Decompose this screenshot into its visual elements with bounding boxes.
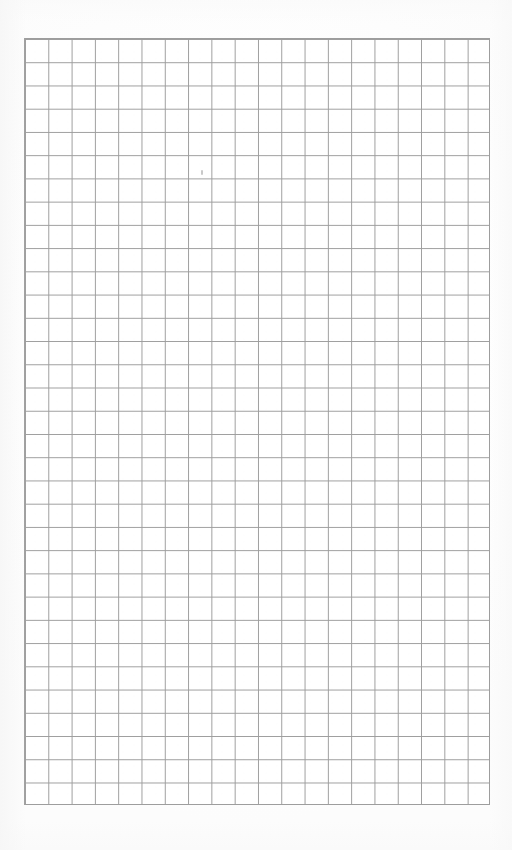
scan-texture-overlay (25, 39, 491, 806)
page-canvas (0, 0, 512, 850)
stray-pencil-mark (201, 170, 203, 175)
graph-paper-grid (24, 38, 490, 805)
